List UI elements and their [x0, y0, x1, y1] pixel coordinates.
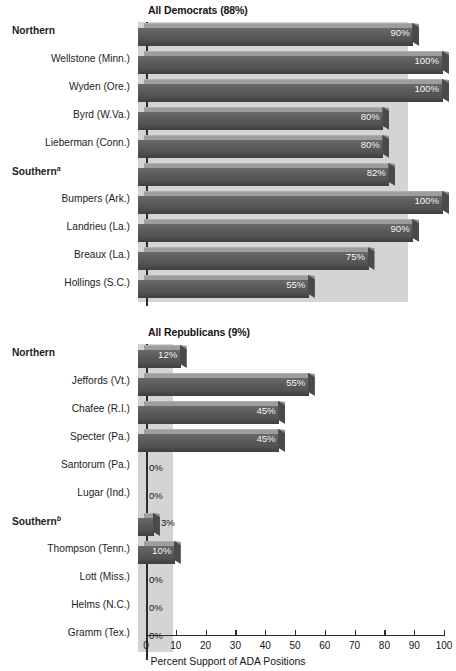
bar-value-label: 90%: [391, 223, 410, 234]
chart-row: Southerna82%: [0, 162, 456, 190]
bar-value-label: 10%: [152, 545, 171, 556]
bar: [138, 219, 414, 243]
row-label: Wellstone (Minn.): [0, 53, 130, 64]
bar-front-face: [138, 28, 413, 41]
bar: [138, 23, 414, 47]
x-axis-line: [146, 635, 445, 636]
x-axis-tick-label: 0: [131, 640, 161, 651]
bar-front-face: [138, 252, 369, 265]
panel-title: All Democrats (88%): [148, 4, 248, 16]
bar-bottom-face: [138, 559, 175, 564]
chart-row: Lugar (Ind.)0%: [0, 484, 456, 512]
x-axis-tick-label: 20: [191, 640, 221, 651]
chart-row: Santorum (Pa.)0%: [0, 456, 456, 484]
row-label: Byrd (W.Va.): [0, 109, 130, 120]
bar-value-label: 0%: [149, 490, 163, 501]
bar-value-label: 90%: [391, 27, 410, 38]
row-label: Gramm (Tex.): [0, 627, 130, 638]
chart-row: Specter (Pa.)45%: [0, 428, 456, 456]
bar-bottom-face: [138, 419, 279, 424]
bar: [138, 163, 390, 187]
bar: [138, 247, 370, 271]
chart-row: Breaux (La.)75%: [0, 246, 456, 274]
bar-value-label: 0%: [149, 462, 163, 473]
bar: [138, 275, 310, 299]
bar-value-label: 100%: [414, 83, 439, 94]
chart-row: Southernb3%: [0, 512, 456, 540]
row-label: Thompson (Tenn.): [0, 543, 130, 554]
bar-bottom-face: [138, 69, 443, 74]
bar-bottom-face: [138, 447, 279, 452]
bar-value-label: 80%: [361, 139, 380, 150]
bar-value-label: 45%: [256, 405, 275, 416]
bar-bottom-face: [138, 209, 443, 214]
chart-row: Landrieu (La.)90%: [0, 218, 456, 246]
bar-bottom-face: [138, 125, 383, 130]
chart-row: Helms (N.C.)0%: [0, 596, 456, 624]
x-axis-tick: [414, 630, 415, 635]
chart-row: Northern12%: [0, 344, 456, 372]
row-label: Southerna: [0, 165, 130, 177]
row-label: Southernb: [0, 515, 130, 527]
bar: [138, 191, 444, 215]
bar-front-face: [138, 140, 383, 153]
bar-front-face: [138, 112, 383, 125]
x-axis-tick-label: 70: [340, 640, 370, 651]
bar-front-face: [138, 84, 443, 97]
bar-front-face: [138, 378, 309, 391]
x-axis-tick-label: 60: [310, 640, 340, 651]
x-axis-tick: [444, 630, 445, 635]
bar-front-face: [138, 56, 443, 69]
row-label: Lott (Miss.): [0, 571, 130, 582]
bar-value-label: 100%: [414, 55, 439, 66]
panel-title: All Republicans (9%): [148, 326, 250, 338]
x-axis-tick: [355, 630, 356, 635]
row-label: Wyden (Ore.): [0, 81, 130, 92]
ada-support-chart: All Democrats (88%)Northern90%Wellstone …: [0, 0, 456, 671]
bar-bottom-face: [138, 237, 413, 242]
bar-value-label: 55%: [286, 279, 305, 290]
x-axis-tick: [325, 630, 326, 635]
x-axis-tick-label: 100: [429, 640, 456, 651]
bar: [138, 51, 444, 75]
chart-row: Lieberman (Conn.)80%: [0, 134, 456, 162]
chart-row: Bumpers (Ark.)100%: [0, 190, 456, 218]
chart-row: Wyden (Ore.)100%: [0, 78, 456, 106]
row-label: Jeffords (Vt.): [0, 375, 130, 386]
row-label: Landrieu (La.): [0, 221, 130, 232]
chart-row: Byrd (W.Va.)80%: [0, 106, 456, 134]
bar-bottom-face: [138, 181, 389, 186]
row-label: Lugar (Ind.): [0, 487, 130, 498]
x-axis-tick: [176, 630, 177, 635]
row-label: Lieberman (Conn.): [0, 137, 130, 148]
bar: [138, 373, 310, 397]
row-label: Chafee (R.I.): [0, 403, 130, 414]
row-label: Northern: [0, 347, 130, 358]
x-axis-tick: [206, 630, 207, 635]
chart-panel-2: All Republicans (9%)Northern12%Jeffords …: [0, 344, 456, 652]
bar-bottom-face: [138, 153, 383, 158]
bar: [138, 107, 384, 131]
bar-front-face: [138, 280, 309, 293]
chart-row: Hollings (S.C.)55%: [0, 274, 456, 302]
bar: [138, 513, 155, 537]
bar-value-label: 12%: [158, 349, 177, 360]
chart-row: Northern90%: [0, 22, 456, 50]
bar-value-label: 0%: [149, 574, 163, 585]
bar-bottom-face: [138, 265, 369, 270]
bar-bottom-face: [138, 293, 309, 298]
bar-value-label: 82%: [367, 167, 386, 178]
bar-value-label: 3%: [161, 517, 175, 528]
x-axis-tick: [265, 630, 266, 635]
bar-bottom-face: [138, 391, 309, 396]
row-label: Northern: [0, 25, 130, 36]
bar-front-face: [138, 196, 443, 209]
x-axis-tick-label: 80: [369, 640, 399, 651]
row-label: Breaux (La.): [0, 249, 130, 260]
x-axis-tick-label: 50: [280, 640, 310, 651]
x-axis-title: Percent Support of ADA Positions: [0, 656, 456, 667]
bar-value-label: 100%: [414, 195, 439, 206]
bar-front-face: [138, 168, 389, 181]
bar-front-face: [138, 224, 413, 237]
x-axis-tick: [295, 630, 296, 635]
